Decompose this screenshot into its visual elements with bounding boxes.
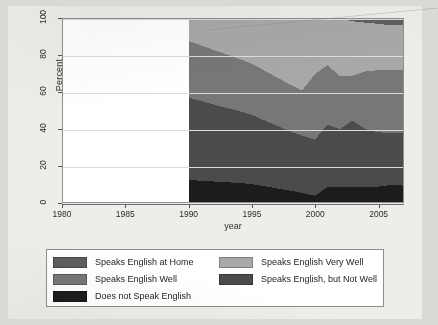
x-axis-title: year — [62, 221, 404, 231]
gridline — [63, 167, 403, 168]
x-axis-line — [62, 204, 404, 205]
x-tick-label: 2000 — [295, 209, 335, 219]
x-tick-label: 1990 — [169, 209, 209, 219]
legend-entry[interactable]: Speaks English at Home — [53, 254, 223, 270]
legend-column-left: Speaks English at HomeSpeaks English Wel… — [53, 254, 223, 305]
y-tick-label: 80 — [38, 43, 48, 65]
y-tick-label: 40 — [38, 117, 48, 139]
gridline — [63, 130, 403, 131]
x-tick-mark — [252, 204, 253, 208]
legend-entry[interactable]: Speaks English, but Not Well — [219, 271, 383, 287]
legend-label: Speaks English at Home — [95, 257, 194, 268]
legend-swatch — [53, 257, 87, 268]
legend-entry[interactable]: Speaks English Well — [53, 271, 223, 287]
y-tick-mark — [58, 166, 62, 167]
stacked-area-series — [63, 19, 403, 202]
plot-area — [62, 18, 404, 203]
legend-column-right: Speaks English Very WellSpeaks English, … — [219, 254, 383, 288]
y-axis-ticks: 020406080100 — [34, 10, 58, 228]
y-tick-mark — [58, 129, 62, 130]
x-tick-label: 1985 — [105, 209, 145, 219]
legend-entry[interactable]: Speaks English Very Well — [219, 254, 383, 270]
legend-label: Does not Speak English — [95, 291, 191, 302]
x-tick-mark — [125, 204, 126, 208]
y-tick-mark — [58, 55, 62, 56]
gridline — [63, 56, 403, 57]
legend-swatch — [219, 274, 253, 285]
x-tick-mark — [62, 204, 63, 208]
legend-swatch — [219, 257, 253, 268]
figure-canvas: Percent 020406080100 year 19801985199019… — [8, 6, 422, 319]
gridline — [63, 19, 403, 20]
y-tick-mark — [58, 92, 62, 93]
y-tick-mark — [58, 18, 62, 19]
legend-label: Speaks English Well — [95, 274, 177, 285]
legend-entry[interactable]: Does not Speak English — [53, 288, 223, 304]
legend-label: Speaks English, but Not Well — [261, 274, 377, 285]
x-tick-mark — [379, 204, 380, 208]
y-tick-label: 100 — [38, 6, 48, 28]
y-tick-label: 60 — [38, 80, 48, 102]
x-tick-mark — [189, 204, 190, 208]
x-tick-label: 1980 — [42, 209, 82, 219]
legend: Speaks English at HomeSpeaks English Wel… — [46, 249, 384, 307]
gridline — [63, 93, 403, 94]
y-tick-label: 20 — [38, 154, 48, 176]
x-tick-label: 2005 — [359, 209, 399, 219]
x-tick-mark — [315, 204, 316, 208]
plot-region: Percent 020406080100 year 19801985199019… — [20, 10, 410, 228]
legend-label: Speaks English Very Well — [261, 257, 363, 268]
legend-swatch — [53, 274, 87, 285]
legend-swatch — [53, 291, 87, 302]
x-tick-label: 1995 — [232, 209, 272, 219]
